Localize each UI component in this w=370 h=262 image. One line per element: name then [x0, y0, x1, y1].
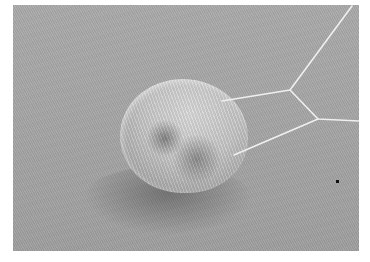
upper-filament: [222, 6, 352, 101]
right-filament: [290, 90, 359, 121]
filament-network: [13, 5, 359, 251]
micrograph-image: [13, 5, 359, 251]
lower-filament: [234, 119, 318, 155]
dark-speck: [336, 180, 339, 183]
